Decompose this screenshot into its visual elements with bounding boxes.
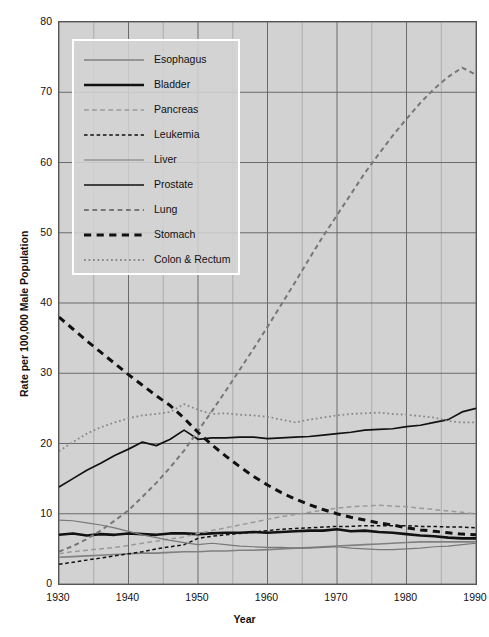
legend-item-pancreas: Pancreas [74,97,238,122]
legend-label: Prostate [154,179,193,190]
legend-label: Pancreas [154,104,198,115]
legend-label: Leukemia [154,129,200,140]
y-tick-label: 20 [22,437,52,449]
y-tick-label: 10 [22,507,52,519]
x-tick-label: 1930 [36,591,80,603]
legend-swatch-icon [83,54,145,66]
legend-item-stomach: Stomach [74,222,238,247]
legend-item-leukemia: Leukemia [74,122,238,147]
x-tick-label: 1990 [453,591,489,603]
y-tick-label: 60 [22,156,52,168]
legend-swatch-icon [83,104,145,116]
legend-swatch-icon [83,179,145,191]
y-tick-label: 0 [22,577,52,589]
x-tick-label: 1950 [175,591,219,603]
legend-label: Liver [154,154,177,165]
legend-item-prostate: Prostate [74,172,238,197]
legend-label: Lung [154,204,177,215]
x-tick-label: 1940 [106,591,150,603]
y-tick-label: 70 [22,85,52,97]
legend-label: Colon & Rectum [154,254,230,265]
legend-item-colon-rectum: Colon & Rectum [74,247,238,272]
legend-label: Esophagus [154,54,207,65]
legend-swatch-icon [83,204,145,216]
x-tick-label: 1970 [314,591,358,603]
legend-item-lung: Lung [74,197,238,222]
y-tick-label: 80 [22,15,52,27]
x-tick-label: 1960 [245,591,289,603]
legend-swatch-icon [83,254,145,266]
legend-swatch-icon [83,229,145,241]
legend-swatch-icon [83,79,145,91]
x-tick-label: 1980 [384,591,428,603]
legend-item-bladder: Bladder [74,72,238,97]
y-axis-title: Rate per 100,000 Male Population [18,231,30,397]
legend-label: Bladder [154,79,190,90]
legend-swatch-icon [83,154,145,166]
legend-item-liver: Liver [74,147,238,172]
chart-legend: EsophagusBladderPancreasLeukemiaLiverPro… [72,39,240,275]
x-axis-title: Year [0,613,489,625]
legend-label: Stomach [154,229,195,240]
cancer-mortality-chart: 0102030405060708019301940195019601970198… [0,0,489,637]
legend-item-esophagus: Esophagus [74,47,238,72]
legend-swatch-icon [83,129,145,141]
